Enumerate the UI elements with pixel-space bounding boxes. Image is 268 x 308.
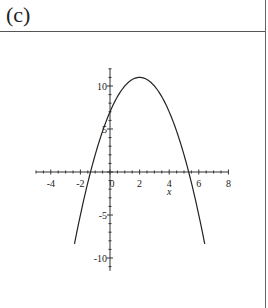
x-tick-label: 0 [110, 178, 115, 189]
parabola-plot: -4-202468x105-5-10 [0, 0, 268, 308]
y-tick-label: 10 [97, 81, 107, 92]
x-tick-label: 6 [196, 178, 201, 189]
x-tick-label: 8 [226, 178, 231, 189]
parabola-curve [74, 77, 204, 244]
x-tick-label: -2 [76, 178, 84, 189]
y-tick-label: -10 [94, 253, 107, 264]
x-tick-label: 2 [137, 178, 142, 189]
x-tick-label: -4 [47, 178, 55, 189]
y-tick-label: -5 [99, 210, 107, 221]
x-axis-label: x [166, 186, 172, 197]
